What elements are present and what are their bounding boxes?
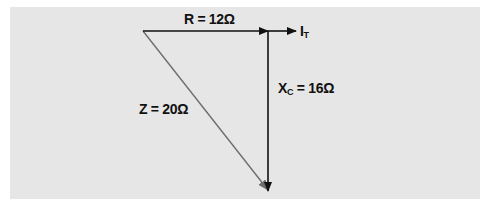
- impedance-label: Z = 20Ω: [139, 101, 188, 117]
- current-label: IT: [300, 23, 309, 40]
- reactance-value: = 16Ω: [293, 80, 334, 96]
- current-subscript: T: [304, 30, 309, 40]
- resistance-label: R = 12Ω: [184, 11, 235, 27]
- reactance-label: XC = 16Ω: [278, 80, 334, 97]
- phasor-diagram: [0, 0, 487, 204]
- reactance-symbol: X: [278, 80, 287, 96]
